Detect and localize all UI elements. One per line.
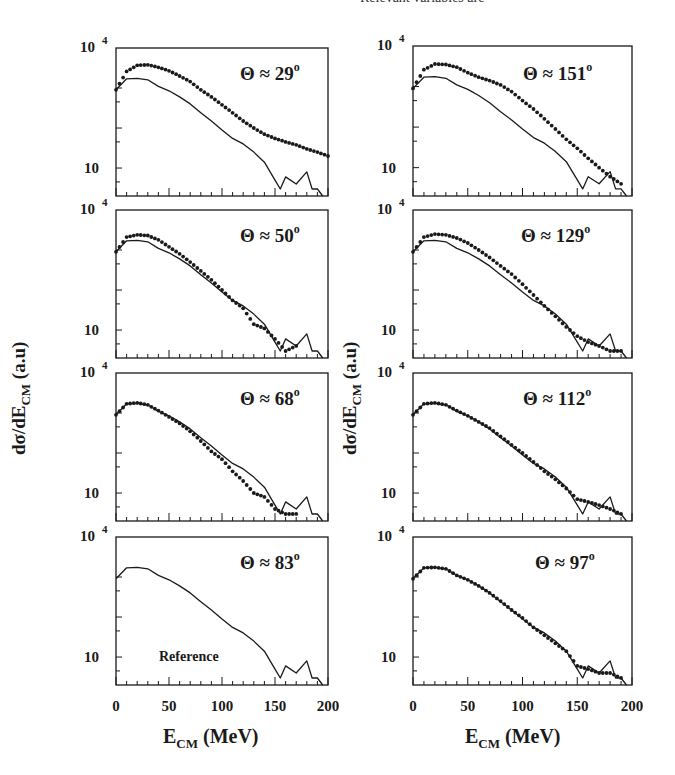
data-point (437, 62, 441, 66)
y-axis-title-sub: CM (349, 384, 364, 406)
y-axis-title-main: dσ/dE (339, 406, 360, 455)
degree-sign: o (294, 385, 300, 399)
y-axis-title-unit: (a.u) (339, 342, 360, 384)
data-point (142, 63, 146, 67)
data-point (470, 243, 474, 247)
figure-canvas: 10410Θ ≈ 29o10410Θ ≈ 50o10410Θ ≈ 68o1041… (0, 0, 675, 775)
data-point (270, 135, 274, 139)
data-point (470, 72, 474, 76)
data-point (590, 160, 594, 164)
data-point (326, 154, 330, 158)
data-point (323, 153, 327, 157)
data-point (277, 138, 281, 142)
data-point (259, 494, 263, 498)
data-point (238, 116, 242, 120)
data-point (513, 93, 517, 97)
data-point (231, 469, 235, 473)
x-tick-label: 50 (460, 698, 475, 714)
data-point (245, 312, 249, 316)
data-point (284, 140, 288, 144)
data-point (139, 233, 143, 237)
data-point (241, 479, 245, 483)
data-point (575, 146, 579, 150)
data-point (557, 131, 561, 135)
data-point (535, 297, 539, 301)
data-point (462, 239, 466, 243)
data-point (217, 455, 221, 459)
data-point (484, 78, 488, 82)
x-tick-label: 100 (211, 698, 234, 714)
data-point (188, 80, 192, 84)
data-point (248, 487, 252, 491)
data-point (153, 237, 157, 241)
data-point (506, 88, 510, 92)
data-point (601, 671, 605, 675)
data-point (422, 235, 426, 239)
data-point (579, 665, 583, 669)
x-axis-title-sub: CM (176, 736, 198, 751)
x-tick-label: 0 (409, 698, 417, 714)
data-point (252, 322, 256, 326)
y-tick-label-top: 10 (377, 364, 392, 380)
data-point (319, 152, 323, 156)
x-tick-label: 0 (112, 698, 120, 714)
data-point (291, 142, 295, 146)
data-point (301, 146, 305, 150)
angle-label: Θ ≈ 29o (240, 60, 300, 84)
data-point (444, 63, 448, 67)
y-tick-label-10: 10 (381, 322, 396, 338)
y-tick-label-top: 10 (80, 364, 95, 380)
data-point (149, 64, 153, 68)
data-point (291, 346, 295, 350)
y-axis-title-right: dσ/dECM (a.u) (339, 342, 365, 455)
data-point (185, 78, 189, 82)
y-tick-label-exponent: 4 (399, 196, 405, 208)
data-point (125, 235, 129, 239)
data-point (502, 85, 506, 89)
data-point (164, 68, 168, 72)
data-point (583, 338, 587, 342)
data-point (440, 233, 444, 237)
data-point (167, 245, 171, 249)
data-point (273, 137, 277, 141)
data-point (422, 68, 426, 72)
data-point (181, 76, 185, 80)
data-point (579, 150, 583, 154)
data-point (488, 256, 492, 260)
data-point (528, 290, 532, 294)
reference-line (413, 240, 627, 358)
data-point (448, 64, 452, 68)
y-tick-label-exponent: 4 (399, 523, 405, 535)
reference-line (413, 77, 627, 196)
data-point (255, 492, 259, 496)
reference-line (116, 403, 323, 521)
data-point (517, 279, 521, 283)
y-axis-title-main: dσ/dE (8, 406, 29, 455)
data-point (564, 137, 568, 141)
x-axis-title-sub: CM (478, 736, 500, 751)
data-point (227, 465, 231, 469)
data-point (199, 88, 203, 92)
data-point (597, 503, 601, 507)
data-point (608, 507, 612, 511)
data-point (128, 68, 132, 72)
data-point (157, 65, 161, 69)
data-point (192, 263, 196, 267)
data-point (535, 110, 539, 114)
y-tick-label-10: 10 (84, 485, 99, 501)
data-point (481, 76, 485, 80)
data-point (473, 74, 477, 78)
data-point (495, 82, 499, 86)
data-point (440, 62, 444, 66)
data-point (521, 99, 525, 103)
x-axis-title-main: E (465, 725, 478, 747)
data-point (517, 96, 521, 100)
data-point (266, 134, 270, 138)
data-point (185, 257, 189, 261)
data-point (455, 236, 459, 240)
degree-sign: o (586, 60, 592, 74)
data-point (213, 98, 217, 102)
data-point (132, 65, 136, 69)
data-point (284, 512, 288, 516)
data-point (234, 473, 238, 477)
